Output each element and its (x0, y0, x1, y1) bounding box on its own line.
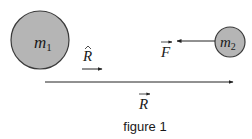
unit-vector-r-hat: R (82, 46, 102, 69)
force-vector: F (160, 41, 215, 60)
force-label: F (160, 44, 171, 60)
unit-vector-label: R (82, 48, 92, 64)
figure-caption: figure 1 (123, 119, 166, 134)
displacement-vector: R (45, 82, 233, 112)
mass-m1: m1 (11, 11, 69, 69)
displacement-label: R (138, 96, 148, 112)
gravitation-diagram: m1 m2 F R R figure 1 (0, 0, 252, 139)
mass-m2: m2 (215, 27, 245, 57)
